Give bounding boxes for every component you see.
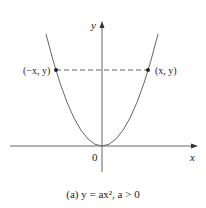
y-axis-label: y [90, 19, 96, 31]
left-point-label: (−x, y) [23, 65, 50, 77]
right-point-label: (x, y) [155, 65, 177, 77]
caption: (a) y = ax², a > 0 [66, 188, 140, 201]
origin-label: 0 [92, 151, 98, 163]
left-point [54, 68, 58, 72]
parabola-figure: y x 0 (−x, y) (x, y) (a) y = ax², a > 0 [0, 0, 206, 208]
x-axis-arrow-icon [191, 144, 198, 149]
axes [10, 26, 194, 172]
x-axis-label: x [189, 151, 195, 163]
right-point [146, 68, 150, 72]
y-axis-arrow-icon [100, 21, 105, 28]
